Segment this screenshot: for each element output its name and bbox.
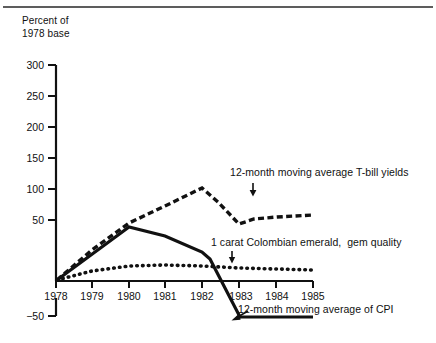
x-tick-label-1985: 1985 [301,290,325,302]
y-tick-label-250: 250 [26,90,44,102]
x-tick-label-1984: 1984 [265,290,289,302]
series-line-cpi [57,265,313,280]
x-tick-label-1979: 1979 [80,290,104,302]
x-tick-label-1978: 1978 [44,290,68,302]
annotation-pointer-emerald [229,251,235,264]
annotation-label-t-bill-yields: 12-month moving average T-bill yields [230,166,409,178]
annotation-label-cpi: 12-month moving average of CPI [238,303,394,315]
x-tick-label-1982: 1982 [190,290,214,302]
x-axis: 1978 1979 1980 1981 1982 1983 1984 1985 [44,281,325,302]
y-tick-label-300: 300 [26,59,44,71]
y-tick-label-150: 150 [26,152,44,164]
x-tick-label-1980: 1980 [117,290,141,302]
x-tick-label-1981: 1981 [153,290,177,302]
annotation-pointer-t-bill [250,183,257,197]
y-tick-label-100: 100 [26,183,44,195]
y-axis: 300 250 200 150 100 50 −50 [26,59,56,322]
y-tick-label-200: 200 [26,121,44,133]
annotation-label-emerald: 1 carat Colombian emerald, gem quality [211,236,401,248]
y-tick-label-50: 50 [32,214,44,226]
chart-figure: Percent of 1978 base 300 250 200 150 100… [0,0,436,343]
y-tick-label-minus50: −50 [26,310,44,322]
